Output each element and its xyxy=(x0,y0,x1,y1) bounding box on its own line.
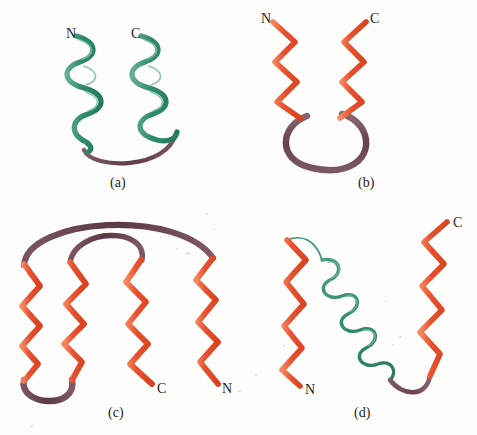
scan-speck xyxy=(30,425,33,427)
loop-inner-arc-c xyxy=(70,235,142,262)
scan-speck xyxy=(176,248,178,250)
beta-strand-1-c xyxy=(22,264,40,381)
panel-b: N C (b) xyxy=(250,0,477,200)
alpha-helix-left-a xyxy=(67,36,101,152)
scan-speck xyxy=(392,344,394,346)
beta-strand-right-d xyxy=(420,222,447,376)
c-terminus-label-a: C xyxy=(131,27,140,41)
panel-caption-b: (b) xyxy=(358,176,374,190)
alpha-helix-right-a xyxy=(132,36,177,141)
scan-speck xyxy=(330,280,332,282)
n-terminus-label-a: N xyxy=(66,27,76,41)
beta-strand-left-b xyxy=(273,22,300,118)
panel-caption-d: (d) xyxy=(354,406,370,420)
c-terminus-label-d: C xyxy=(453,216,462,230)
loop-bottom-connector-d xyxy=(390,376,430,392)
scan-speck xyxy=(399,336,402,338)
beta-strand-2-c xyxy=(64,262,86,380)
scan-speck xyxy=(238,390,241,392)
n-terminus-label-b: N xyxy=(261,12,271,26)
beta-strand-4-c xyxy=(196,258,218,384)
beta-strand-left-d xyxy=(282,240,306,386)
scan-speck xyxy=(255,374,257,376)
c-terminus-label-b: C xyxy=(370,12,379,26)
loop-bottom-u-turn-c xyxy=(24,380,73,401)
alpha-helix-d xyxy=(322,259,394,380)
beta-strand-right-b xyxy=(340,22,366,118)
loop-ribbon-b xyxy=(286,114,366,170)
loop-ribbon-a xyxy=(84,133,176,163)
scan-speck xyxy=(385,300,387,302)
scan-speck xyxy=(283,345,285,347)
scan-speck xyxy=(186,252,190,255)
c-terminus-label-c: C xyxy=(157,382,166,396)
panel-caption-c: (c) xyxy=(108,406,124,420)
scan-speck xyxy=(213,228,215,230)
panel-d: N C (d) xyxy=(250,200,477,435)
panel-a: N C (a) xyxy=(0,0,230,200)
n-terminus-label-d: N xyxy=(305,383,315,397)
n-terminus-label-c: N xyxy=(222,382,232,396)
panel-caption-a: (a) xyxy=(110,176,126,190)
loop-outer-arc-c xyxy=(24,225,213,265)
beta-strand-3-c xyxy=(126,260,152,384)
scan-speck xyxy=(205,213,208,215)
panel-c: C N (c) xyxy=(0,200,250,435)
protein-motif-figure: N C (a) xyxy=(0,0,477,435)
